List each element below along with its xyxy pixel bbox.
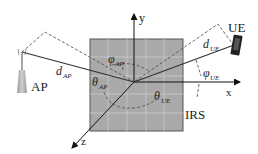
svg-text:UE: UE: [161, 97, 171, 105]
svg-text:UE: UE: [210, 74, 220, 82]
d-ue-label: d UE: [203, 37, 220, 53]
phi-ue-label: φ UE: [203, 66, 220, 82]
ap-label: AP: [31, 79, 48, 94]
svg-text:AP: AP: [98, 83, 108, 91]
ap-icon: [17, 49, 27, 93]
svg-text:φ: φ: [203, 66, 210, 80]
svg-text:AP: AP: [62, 72, 72, 80]
svg-text:d: d: [56, 64, 63, 78]
z-axis-label: z: [81, 135, 86, 147]
svg-text:θ: θ: [154, 89, 160, 103]
x-axis-label: x: [226, 86, 232, 98]
svg-text:θ: θ: [92, 75, 98, 89]
svg-text:d: d: [203, 37, 210, 51]
svg-text:AP: AP: [114, 60, 124, 68]
ue-icon: [230, 34, 242, 55]
d-ap-label: d AP: [56, 64, 72, 80]
irs-system-diagram: y x z AP UE IRS d AP d UE φ AP θ AP φ UE…: [0, 0, 258, 154]
svg-text:φ: φ: [108, 52, 115, 66]
irs-label: IRS: [185, 107, 205, 122]
svg-text:UE: UE: [210, 45, 220, 53]
y-axis-label: y: [139, 11, 145, 25]
ue-label: UE: [228, 20, 245, 35]
